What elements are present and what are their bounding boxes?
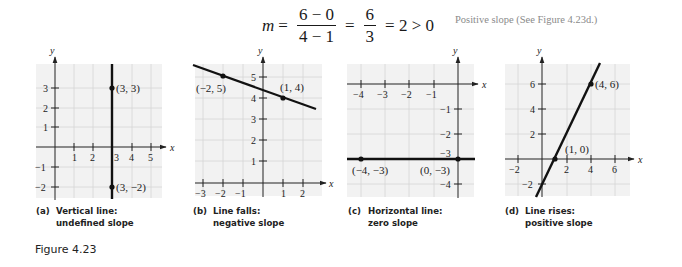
point-label: (−2, 5) bbox=[196, 82, 226, 95]
x-axis-label: x bbox=[637, 154, 643, 165]
caption-tag: (d) bbox=[505, 205, 525, 217]
y-tick-label: −4 bbox=[440, 179, 451, 190]
caption-line-2: negative slope bbox=[193, 217, 284, 229]
y-tick-label: 3 bbox=[43, 83, 48, 94]
x-tick-label: 2 bbox=[90, 152, 95, 163]
x-tick-label: 2 bbox=[564, 164, 569, 175]
x-tick-label: 4 bbox=[129, 152, 134, 163]
caption-line-1: Line falls: bbox=[213, 206, 260, 216]
data-point bbox=[588, 81, 593, 86]
x-tick-label: −1 bbox=[426, 89, 437, 100]
y-tick-label: 2 bbox=[530, 129, 535, 140]
y-tick-label: 1 bbox=[251, 156, 256, 167]
x-tick-label: 5 bbox=[148, 152, 153, 163]
panel-a-vertical-line: x y 1 2 3 4 5 3 2 1 −1 −2 (3, 3) (3, −2) bbox=[35, 45, 175, 200]
y-tick-label: 5 bbox=[251, 72, 256, 83]
data-point bbox=[109, 184, 114, 189]
caption-panel-b: (b)Line falls: negative slope bbox=[193, 205, 284, 229]
point-label: (−4, −3) bbox=[352, 164, 389, 177]
data-point bbox=[358, 156, 363, 161]
y-tick-label: −3 bbox=[440, 148, 451, 159]
y-axis-label: y bbox=[452, 45, 458, 56]
data-point bbox=[455, 156, 460, 161]
panel-b-falling-line: x y −3 −2 −1 1 2 5 4 3 2 1 (−2, 5) (1, 4… bbox=[193, 45, 334, 199]
x-tick-label: 6 bbox=[612, 164, 617, 175]
y-tick-label: −2 bbox=[522, 179, 533, 190]
point-label: (4, 6) bbox=[595, 78, 619, 91]
x-tick-label: 2 bbox=[300, 188, 305, 199]
y-axis-label: y bbox=[49, 45, 55, 56]
panel-c-horizontal-line: x y −4 −3 −2 −1 −1 −2 −3 −4 (−4, −3) (0,… bbox=[347, 45, 487, 198]
x-tick-label: −2 bbox=[401, 89, 412, 100]
x-tick-label: 1 bbox=[281, 188, 286, 199]
caption-tag: (a) bbox=[36, 205, 56, 217]
caption-line-2: undefined slope bbox=[36, 217, 134, 229]
caption-line-1: Horizontal line: bbox=[368, 206, 442, 216]
caption-line-1: Line rises: bbox=[525, 206, 575, 216]
x-axis-label: x bbox=[169, 142, 175, 153]
y-tick-label: −1 bbox=[440, 104, 451, 115]
x-tick-label: 3 bbox=[114, 152, 119, 163]
x-tick-label: −2 bbox=[215, 188, 226, 199]
y-tick-label: 4 bbox=[251, 93, 256, 104]
data-point bbox=[552, 156, 557, 161]
y-tick-label: 2 bbox=[251, 135, 256, 146]
y-tick-label: 1 bbox=[43, 122, 48, 133]
x-tick-label: 1 bbox=[72, 152, 77, 163]
point-label: (3, −2) bbox=[116, 181, 146, 194]
point-label: (1, 4) bbox=[280, 81, 304, 94]
x-axis-label: x bbox=[328, 178, 334, 189]
caption-panel-c: (c)Horizontal line: zero slope bbox=[348, 205, 442, 229]
data-point bbox=[109, 85, 114, 90]
data-point bbox=[280, 95, 285, 100]
x-tick-label: −3 bbox=[377, 89, 388, 100]
caption-line-2: positive slope bbox=[505, 217, 593, 229]
x-tick-label: 4 bbox=[588, 164, 593, 175]
y-tick-label: 4 bbox=[530, 104, 535, 115]
y-tick-label: 6 bbox=[530, 79, 535, 90]
point-label: (3, 3) bbox=[116, 82, 140, 95]
x-tick-label: −1 bbox=[235, 188, 246, 199]
y-tick-label: −2 bbox=[440, 129, 451, 140]
x-tick-label: −3 bbox=[195, 188, 206, 199]
y-tick-label: −1 bbox=[35, 162, 46, 173]
data-point bbox=[220, 73, 225, 78]
point-label: (0, −3) bbox=[420, 164, 450, 177]
point-label: (1, 0) bbox=[565, 143, 589, 156]
caption-panel-d: (d)Line rises: positive slope bbox=[505, 205, 593, 229]
caption-line-1: Vertical line: bbox=[56, 206, 117, 216]
caption-panel-a: (a)Vertical line: undefined slope bbox=[36, 205, 134, 229]
x-axis-label: x bbox=[481, 79, 487, 90]
x-tick-label: −2 bbox=[509, 164, 520, 175]
caption-tag: (b) bbox=[193, 205, 213, 217]
y-tick-label: 2 bbox=[43, 103, 48, 114]
y-tick-label: −2 bbox=[35, 182, 46, 193]
caption-tag: (c) bbox=[348, 205, 368, 217]
panel-d-rising-line: x y −2 2 4 6 6 4 2 −2 (1, 0) (4, 6) bbox=[505, 45, 643, 197]
caption-line-2: zero slope bbox=[348, 217, 442, 229]
y-tick-label: 3 bbox=[251, 114, 256, 125]
y-axis-label: y bbox=[257, 45, 263, 56]
y-axis-label: y bbox=[536, 45, 542, 56]
figure-label: Figure 4.23 bbox=[35, 243, 97, 256]
x-tick-label: −4 bbox=[353, 89, 364, 100]
